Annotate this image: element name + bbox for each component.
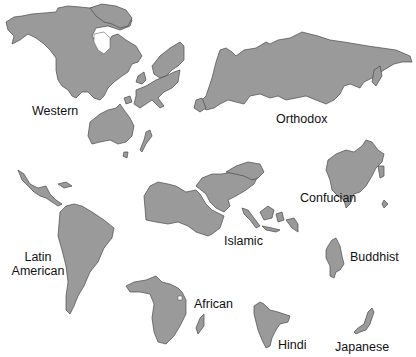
label-buddhist: Buddhist (350, 250, 399, 264)
region-buddhist[interactable] (326, 238, 344, 278)
label-orthodox: Orthodox (276, 112, 327, 126)
region-latin-american[interactable] (18, 170, 114, 314)
landmass-japan[interactable] (354, 308, 374, 334)
landmass-new-zealand[interactable] (140, 130, 152, 152)
label-hindi: Hindi (278, 338, 307, 352)
landmass-java[interactable] (262, 226, 280, 232)
region-african[interactable] (126, 276, 204, 344)
label-western: Western (32, 104, 78, 118)
landmass-malaysia[interactable] (242, 208, 260, 228)
label-african: African (194, 297, 233, 311)
landmass-borneo[interactable] (260, 206, 274, 220)
landmass-iceland[interactable] (124, 96, 132, 104)
landmass-british-isles[interactable] (136, 72, 146, 84)
region-western[interactable] (6, 4, 184, 158)
landmass-korea[interactable] (378, 166, 384, 178)
landmass-australia[interactable] (88, 104, 134, 144)
label-confucian: Confucian (300, 191, 356, 205)
landmass-south-america[interactable] (58, 204, 114, 314)
landmass-caribbean[interactable] (58, 182, 72, 188)
label-latin-american-line2: American (10, 264, 66, 278)
label-islamic: Islamic (224, 234, 263, 248)
label-latin-american: Latin American (10, 250, 66, 278)
landmass-sub-saharan-africa[interactable] (126, 276, 186, 344)
landmass-sulawesi[interactable] (276, 212, 284, 222)
region-islamic[interactable] (144, 162, 298, 236)
lake-victoria (178, 296, 182, 300)
region-orthodox[interactable] (194, 32, 412, 112)
landmass-new-guinea[interactable] (286, 218, 298, 232)
label-latin-american-line1: Latin (10, 250, 66, 264)
landmass-taiwan[interactable] (382, 200, 388, 208)
label-japanese: Japanese (335, 340, 389, 354)
landmass-madagascar[interactable] (196, 314, 204, 334)
landmass-central-america[interactable] (18, 170, 62, 206)
region-japanese[interactable] (354, 308, 374, 334)
landmass-southeast-asia[interactable] (326, 238, 344, 278)
landmass-tasmania[interactable] (123, 152, 128, 158)
